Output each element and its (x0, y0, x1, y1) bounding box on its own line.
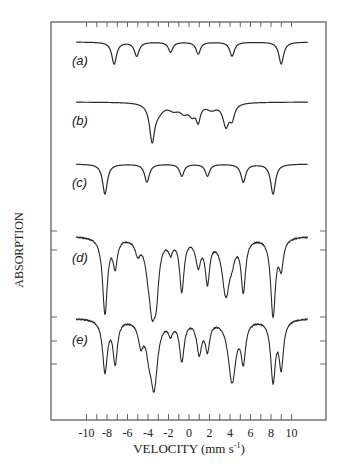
mossbauer-chart: -10-8-6-4-20246810 (a)(b)(c)(d)(e) VELOC… (0, 0, 344, 466)
top-x-ticks (87, 22, 292, 27)
x-tick-labels: -10-8-6-4-20246810 (79, 426, 298, 440)
spectrum-labels: (a)(b)(c)(d)(e) (72, 53, 88, 347)
spectrum-label: (c) (72, 175, 87, 190)
x-tick-label: 4 (227, 426, 233, 440)
x-tick-label: -10 (79, 426, 95, 440)
bottom-x-ticks (87, 414, 292, 420)
plot-frame (51, 22, 326, 420)
spectrum-label: (a) (72, 53, 88, 68)
spectrum-c (76, 164, 308, 194)
x-tick-label: -2 (164, 426, 174, 440)
x-axis-label: VELOCITY (mm s-1) (133, 441, 245, 456)
x-axis-label-close: ) (240, 441, 244, 456)
spectrum-d (76, 237, 308, 322)
spectrum-label: (e) (72, 332, 88, 347)
spectrum-label: (b) (72, 113, 88, 128)
x-axis-label-text: VELOCITY (mm s (133, 441, 234, 456)
spectra (76, 42, 308, 392)
y-axis-label: ABSORPTION (12, 212, 26, 288)
x-tick-label: 8 (268, 426, 274, 440)
spectrum-b (76, 102, 308, 143)
x-tick-label: -6 (123, 426, 133, 440)
x-tick-label: 0 (186, 426, 192, 440)
x-tick-label: 6 (248, 426, 254, 440)
x-tick-label: 10 (286, 426, 298, 440)
x-tick-label: -4 (143, 426, 153, 440)
spectrum-a (76, 42, 308, 64)
x-tick-label: 2 (207, 426, 213, 440)
x-tick-label: -8 (102, 426, 112, 440)
x-axis-label-sup: -1 (234, 441, 241, 450)
spectrum-label: (d) (72, 250, 88, 265)
spectrum-e (76, 319, 308, 393)
